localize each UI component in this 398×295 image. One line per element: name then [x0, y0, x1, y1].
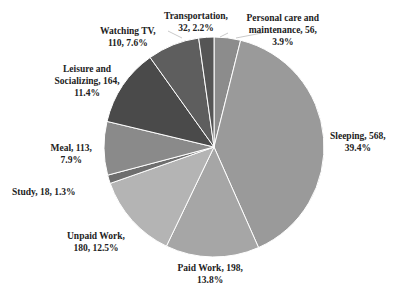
data-label: Leisure andSocializing, 164,11.4% [55, 63, 120, 99]
data-label: Watching TV,110, 7.6% [100, 25, 156, 49]
data-label: Unpaid Work,180, 12.5% [67, 230, 125, 254]
data-label: Sleeping, 568,39.4% [330, 130, 386, 154]
data-label: Transportation,32, 2.2% [164, 10, 228, 34]
pie-slices [104, 37, 324, 257]
data-label: Paid Work, 198,13.8% [178, 262, 243, 286]
data-label: Personal care andmaintenance, 56,3.9% [247, 12, 320, 48]
data-label: Meal, 113,7.9% [51, 142, 92, 166]
data-label: Study, 18, 1.3% [12, 186, 76, 198]
